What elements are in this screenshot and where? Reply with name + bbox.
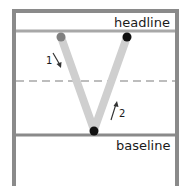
arrow-2-icon [111,101,119,120]
frame-top [12,9,178,13]
letter-v-diagram: 1 2 headline baseline [0,0,187,186]
arrow-1-icon [53,53,62,68]
frame-right [175,9,179,186]
vertex-point-dot [90,127,99,136]
stroke-1-line [61,37,94,130]
frame-left [12,9,16,186]
end-point-dot [123,33,132,42]
headline-label: headline [114,15,170,30]
writing-frame [12,9,179,186]
stroke-2-number: 2 [119,108,125,119]
baseline-label: baseline [116,138,170,153]
start-point-dot [57,33,66,42]
stroke-1-number: 1 [46,55,52,66]
